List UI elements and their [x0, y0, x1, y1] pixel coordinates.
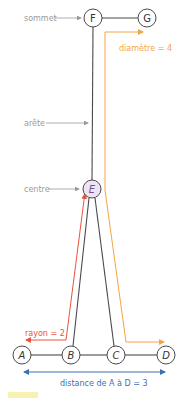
diameter-path-bottom — [105, 190, 164, 342]
sommet-label: sommet — [24, 14, 57, 23]
svg-text:D: D — [162, 350, 170, 361]
edge-e-c — [95, 198, 114, 346]
legend-swatch — [8, 392, 38, 398]
edge-f-e — [92, 27, 93, 180]
node-g: G — [138, 9, 156, 27]
centre-label: centre — [24, 185, 50, 194]
node-a: A — [13, 346, 31, 364]
node-b: B — [62, 346, 80, 364]
svg-text:A: A — [18, 350, 26, 361]
distance-label: distance de A à D = 3 — [60, 379, 147, 388]
svg-text:F: F — [90, 13, 96, 24]
svg-text:C: C — [113, 350, 120, 361]
radius-label: rayon = 2 — [25, 329, 65, 338]
node-e-center: E — [83, 180, 101, 198]
diameter-path-top — [105, 32, 143, 190]
node-f: F — [84, 9, 102, 27]
svg-text:G: G — [143, 13, 151, 24]
node-c: C — [107, 346, 125, 364]
arete-label: arête — [24, 118, 45, 128]
radius-path — [26, 200, 84, 340]
diameter-label: diamètre = 4 — [119, 43, 172, 53]
svg-text:B: B — [68, 350, 75, 361]
graph-diagram: F G E A B C D sommet arête centre diamèt… — [0, 0, 183, 398]
node-d: D — [157, 346, 175, 364]
svg-text:E: E — [89, 184, 96, 195]
